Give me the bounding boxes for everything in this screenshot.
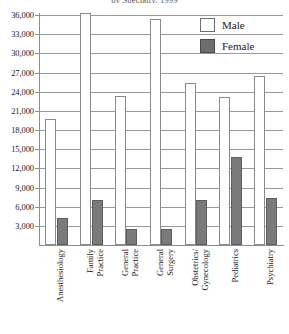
x-axis-category-label: GeneralSurgery [156, 249, 175, 276]
x-axis-category-label: FamilyPractice [86, 249, 105, 276]
y-axis-tick-label: 9,000 [0, 184, 34, 193]
y-axis-tick [35, 34, 39, 35]
y-axis-tick-label: 33,000 [0, 30, 34, 39]
chart-legend: Male Female [200, 14, 283, 56]
bar-female [196, 200, 207, 245]
gridline [39, 111, 283, 112]
bar-chart: by Specialty, 1999 36,00033,00030,00027,… [0, 0, 289, 334]
bar-male [115, 96, 126, 245]
bar-female [126, 229, 137, 245]
gridline [39, 207, 283, 208]
bar-male [80, 13, 91, 245]
bar-female [57, 218, 68, 245]
y-axis-tick [35, 111, 39, 112]
y-axis-tick-label: 36,000 [0, 11, 34, 20]
gridline [39, 130, 283, 131]
bar-male [185, 83, 196, 245]
legend-item-female: Female [200, 35, 283, 56]
chart-title: by Specialty, 1999 [0, 0, 289, 3]
y-axis-tick-label: 30,000 [0, 49, 34, 58]
x-axis-category-label: Anesthesiology [56, 249, 66, 302]
y-axis-tick [35, 207, 39, 208]
gridline [39, 168, 283, 169]
bar-male [254, 76, 265, 245]
y-axis-tick-label: 18,000 [0, 126, 34, 135]
y-axis-tick-label: 6,000 [0, 203, 34, 212]
bar-male [150, 19, 161, 245]
legend-label-female: Female [222, 40, 254, 52]
y-axis-tick [35, 73, 39, 74]
y-axis-tick [35, 53, 39, 54]
y-axis-tick [35, 15, 39, 16]
gridline [39, 188, 283, 189]
bar-female [92, 200, 103, 245]
x-axis-category-label: Obstetrics/Gynecology [191, 249, 210, 291]
gridline [39, 73, 283, 74]
y-axis-tick [35, 168, 39, 169]
gridline [39, 149, 283, 150]
bar-male [219, 97, 230, 245]
x-axis-category-label: GeneralPractice [121, 249, 140, 276]
bar-female [161, 229, 172, 245]
legend-swatch-male-icon [200, 18, 215, 32]
y-axis-tick [35, 92, 39, 93]
y-axis-tick-label: 27,000 [0, 69, 34, 78]
bar-female [266, 198, 277, 245]
x-axis-category-label: Psychiatry [266, 249, 276, 285]
gridline [39, 92, 283, 93]
bar-male [45, 119, 56, 246]
y-axis-tick [35, 226, 39, 227]
y-axis-tick [35, 188, 39, 189]
legend-item-male: Male [200, 14, 283, 35]
x-axis-category-label: Pediatrics [231, 249, 241, 283]
x-axis-line [39, 245, 284, 246]
bar-female [231, 157, 242, 245]
y-axis-tick-label: 21,000 [0, 107, 34, 116]
y-axis-tick [35, 130, 39, 131]
legend-label-male: Male [222, 19, 245, 31]
y-axis-tick-label: 15,000 [0, 145, 34, 154]
y-axis-tick-label: 3,000 [0, 222, 34, 231]
y-axis-tick [35, 149, 39, 150]
legend-swatch-female-icon [200, 39, 215, 53]
gridline [39, 226, 283, 227]
y-axis-tick-label: 24,000 [0, 88, 34, 97]
y-axis-tick-label: 12,000 [0, 164, 34, 173]
